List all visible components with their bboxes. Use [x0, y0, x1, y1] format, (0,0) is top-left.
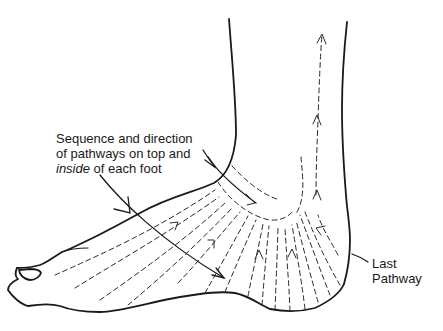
- annotation-line: Sequence and direction: [56, 131, 193, 146]
- arrow-icon: [205, 157, 216, 168]
- annotation-line: Pathway: [372, 271, 422, 286]
- annotation-last-pathway: Last Pathway: [372, 256, 422, 286]
- arrow-up-icon: [288, 249, 296, 258]
- annotation-sequence-direction: Sequence and direction of pathways on to…: [56, 131, 193, 176]
- annotation-line-rest: of each foot: [90, 161, 162, 176]
- annotation-line: Last: [372, 256, 422, 271]
- arrow-up-icon: [313, 115, 321, 125]
- pathway-arrows: [170, 34, 326, 259]
- annotation-italic-word: inside: [56, 161, 90, 176]
- arrow-up-icon: [313, 190, 321, 200]
- arrow-upleft-icon: [316, 226, 325, 235]
- annotation-line: inside of each foot: [56, 161, 193, 176]
- annotation-line: of pathways on top and: [56, 146, 193, 161]
